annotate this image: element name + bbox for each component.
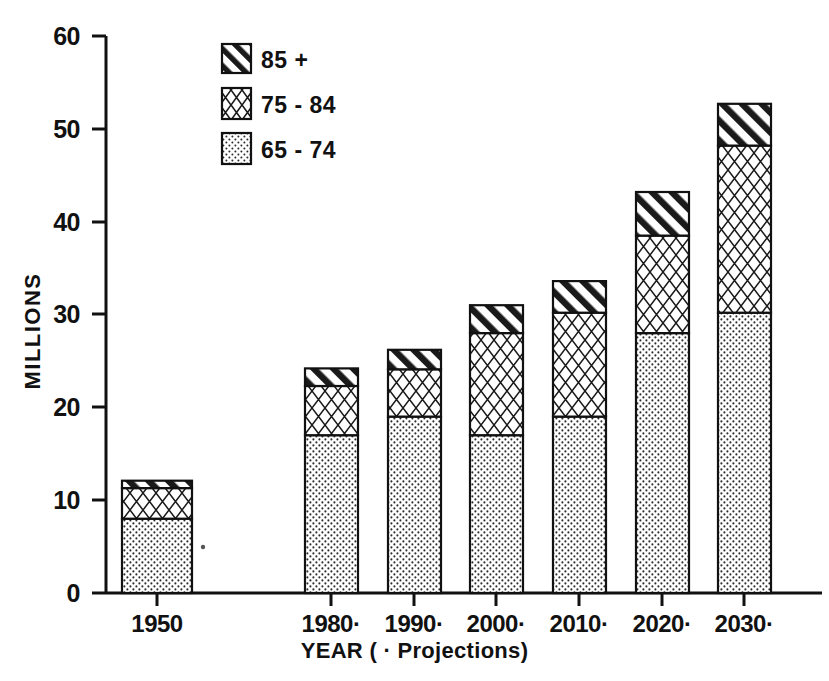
y-tick-label-50: 50 (20, 117, 80, 142)
bar-group-1950 (122, 481, 192, 593)
bar-group-2020 (636, 192, 689, 593)
y-axis-title: MILLIONS (20, 251, 46, 411)
y-tick-label-10: 10 (20, 488, 80, 513)
legend-swatches (222, 44, 251, 164)
x-tick-label-1950: 1950 (97, 612, 217, 636)
axis-lines (106, 36, 822, 593)
bar-group-2000 (470, 305, 523, 593)
x-axis-ticks (157, 593, 744, 606)
crosshatch-swatch (222, 88, 251, 119)
diagonal-stripes-swatch (222, 44, 251, 73)
legend-label-75-84: 75 - 84 (261, 94, 336, 117)
x-axis-title: YEAR ( · Projections) (0, 638, 829, 664)
legend-label-65-74: 65 - 74 (261, 139, 336, 162)
stacked-bar-chart-canvas (0, 0, 829, 681)
bar-group-1990 (388, 350, 441, 593)
y-tick-label-0: 0 (20, 581, 80, 606)
legend-label-85-plus: 85 + (261, 49, 308, 72)
bar-group-2030 (718, 104, 771, 593)
scan-speck (201, 545, 205, 549)
chart-figure: 60 50 40 30 20 10 0 MILLIONS 1950 1980· … (0, 0, 829, 681)
y-tick-label-60: 60 (20, 24, 80, 49)
y-axis-ticks (92, 36, 106, 593)
x-tick-label-2030: 2030· (684, 612, 804, 636)
bar-group-2010 (553, 281, 606, 593)
y-tick-label-40: 40 (20, 210, 80, 235)
bar-group-1980 (305, 368, 358, 593)
dotted-swatch (222, 133, 251, 164)
